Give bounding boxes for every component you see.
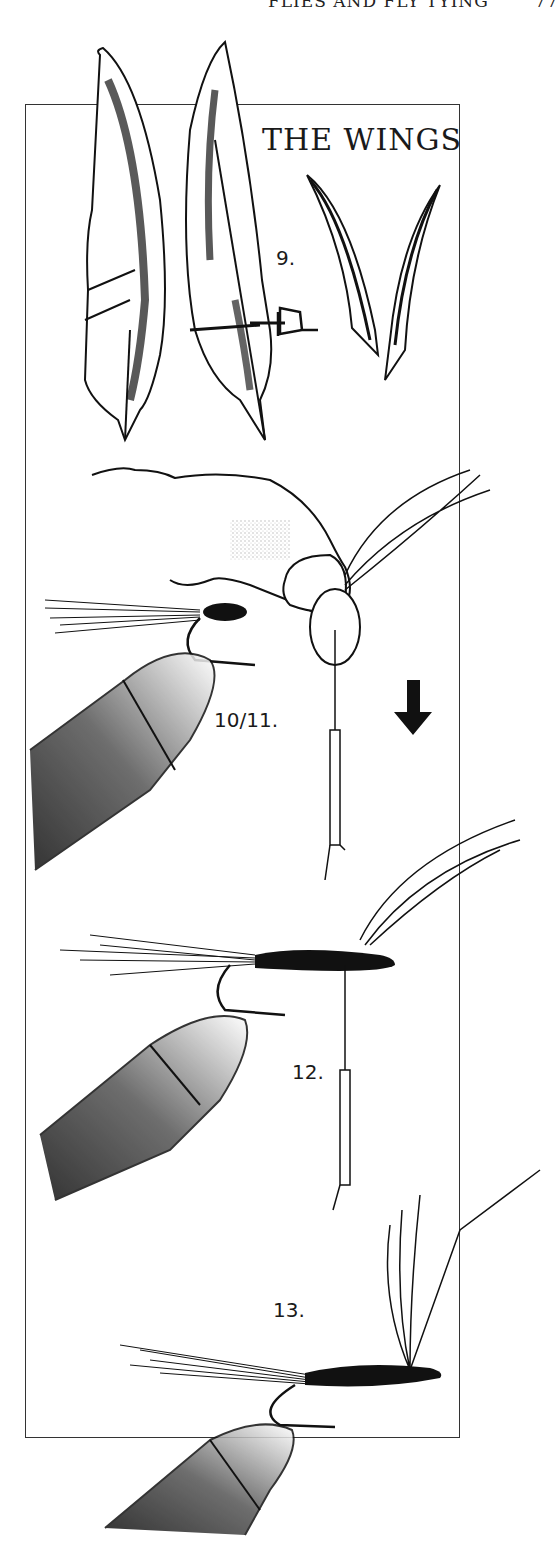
tail-fibers-step13-icon: [120, 1345, 310, 1384]
illustration-artwork: [0, 0, 556, 1562]
fly-body-step12-icon: [255, 950, 395, 971]
hand-icon: [92, 468, 360, 665]
wing-feathers-step12-icon: [360, 820, 520, 945]
wing-slips-icon: [307, 175, 440, 380]
step-label-12: 12.: [292, 1060, 324, 1084]
tail-fibers-icon: [45, 600, 200, 633]
section-title: THE WINGS: [262, 122, 462, 157]
wing-feathers-icon: [345, 470, 490, 590]
feather-right-icon: [186, 42, 271, 440]
wings-upright-icon: [388, 1170, 541, 1370]
step-label-10-11: 10/11.: [214, 708, 278, 732]
bobbin-step12-icon: [333, 965, 350, 1210]
hook-step12-icon: [218, 965, 285, 1015]
vise-jaw-icon: [30, 653, 215, 870]
bobbin-icon: [325, 630, 345, 880]
step-label-13: 13.: [273, 1298, 305, 1322]
fly-body-icon: [203, 603, 247, 621]
step-label-9: 9.: [276, 246, 295, 270]
hook-step13-icon: [270, 1385, 335, 1427]
vise-jaw-step12-icon: [40, 1016, 247, 1200]
feather-left-icon: [85, 48, 165, 440]
arrow-down-icon: [394, 680, 432, 735]
fly-body-step13-icon: [305, 1365, 441, 1387]
vise-jaw-step13-icon: [105, 1424, 294, 1535]
